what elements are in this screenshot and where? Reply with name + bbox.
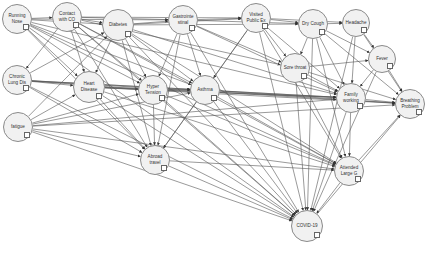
node-asthma[interactable]: Asthma <box>190 75 220 105</box>
node-table-icon[interactable] <box>189 25 195 31</box>
node-heart-disease[interactable]: Heart Disease <box>73 71 105 103</box>
node-covid[interactable]: COVID-19 <box>291 210 323 242</box>
node-abroad[interactable]: Abroad travel <box>140 145 170 175</box>
edge-attended-to-breathing <box>359 115 400 160</box>
edge-contact_co-to-chronic_lung <box>26 29 57 69</box>
edge-hyper_tension-to-abroad <box>153 105 154 145</box>
node-label: Diabetes <box>109 22 127 28</box>
node-label: Asthma <box>197 87 213 93</box>
node-headache[interactable]: Headache <box>342 9 370 37</box>
node-label: Dry Cough <box>302 21 324 27</box>
node-table-icon[interactable] <box>159 95 165 101</box>
edge-layer <box>26 17 402 221</box>
edge-gastro-to-hyper_tension <box>159 34 177 76</box>
node-sore-throat[interactable]: Sore throat <box>280 53 310 83</box>
node-fatigue[interactable]: fatigue <box>3 112 33 142</box>
edge-diabetes-to-dry_cough <box>134 24 298 25</box>
node-table-icon[interactable] <box>24 132 30 138</box>
edge-running_nose-to-contact_co <box>32 18 52 19</box>
node-label: Headache <box>346 20 367 26</box>
node-table-icon[interactable] <box>319 29 325 35</box>
node-table-icon[interactable] <box>262 23 268 29</box>
node-table-icon[interactable] <box>355 176 361 182</box>
edge-visited_public-to-sore_throat <box>265 30 286 56</box>
edge-dry_cough-to-family_working <box>320 37 344 84</box>
node-chronic-lung[interactable]: Chronic Lung Dis <box>2 65 32 95</box>
edge-gastro-to-asthma <box>187 34 200 75</box>
node-table-icon[interactable] <box>73 22 79 28</box>
edge-gastro-to-sore_throat <box>197 26 281 62</box>
node-label: Sore throat <box>284 65 307 71</box>
node-table-icon[interactable] <box>301 73 307 79</box>
edge-headache-to-fever <box>364 34 374 47</box>
edge-family_working-to-attended <box>349 113 350 156</box>
node-table-icon[interactable] <box>125 31 131 37</box>
node-table-icon[interactable] <box>161 165 167 171</box>
edge-dry_cough-to-sore_throat <box>301 38 308 54</box>
node-table-icon[interactable] <box>416 109 422 115</box>
node-breathing[interactable]: Breathing Problem <box>395 89 425 119</box>
node-diabetes[interactable]: Diabetes <box>102 9 134 41</box>
node-table-icon[interactable] <box>96 93 102 99</box>
node-table-icon[interactable] <box>314 232 320 238</box>
edge-fatigue-to-asthma <box>33 93 191 124</box>
node-label: Heart Disease <box>81 81 98 93</box>
node-contact-co[interactable]: Contact with CO <box>52 2 82 32</box>
edge-abroad-to-covid <box>169 166 293 220</box>
node-visited-public[interactable]: Visited Public Ex <box>241 3 271 33</box>
node-gastro[interactable]: Gastrointe stinal <box>168 5 198 35</box>
node-dry-cough[interactable]: Dry Cough <box>298 9 328 39</box>
node-table-icon[interactable] <box>211 95 217 101</box>
edge-asthma-to-breathing <box>220 91 395 103</box>
edge-running_nose-to-covid <box>29 28 294 217</box>
edge-running_nose-to-heart_disease <box>28 29 77 76</box>
edge-sore_throat-to-fever <box>310 60 368 66</box>
node-attended[interactable]: Attended Large G <box>334 156 364 186</box>
edge-chronic_lung-to-diabetes <box>30 33 104 73</box>
node-label: fatigue <box>11 124 25 130</box>
node-table-icon[interactable] <box>361 27 367 33</box>
node-hyper-tension[interactable]: Hyper Tension <box>138 75 168 105</box>
node-table-icon[interactable] <box>23 24 29 30</box>
network-diagram-canvas <box>0 0 440 257</box>
node-label: COVID-19 <box>296 223 317 229</box>
edge-fatigue-to-covid <box>32 132 292 221</box>
edge-fatigue-to-attended <box>33 129 334 169</box>
node-table-icon[interactable] <box>357 103 363 109</box>
edge-diabetes-to-hyper_tension <box>126 39 146 77</box>
node-fever[interactable]: Fever <box>368 45 396 73</box>
node-running-nose[interactable]: Running Nose <box>2 4 32 34</box>
edge-diabetes-to-asthma <box>131 35 193 81</box>
edge-contact_co-to-covid <box>78 27 295 216</box>
node-table-icon[interactable] <box>387 63 393 69</box>
edge-fever-to-family_working <box>360 70 373 86</box>
node-family-working[interactable]: Family working <box>336 83 366 113</box>
node-table-icon[interactable] <box>23 85 29 91</box>
node-label: Fever <box>376 56 388 62</box>
edge-asthma-to-attended <box>218 97 336 163</box>
edge-fatigue-to-abroad <box>33 131 141 157</box>
